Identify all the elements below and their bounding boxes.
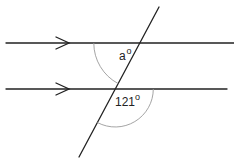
angle-a-degree: o <box>127 46 132 56</box>
angle-a-label: a <box>119 49 126 63</box>
transversal-line <box>79 7 159 157</box>
angle-a-arc <box>94 43 118 84</box>
angle-121-label: 121 <box>115 95 135 109</box>
angle-121-degree: o <box>135 92 140 102</box>
geometry-diagram: a o 121 o <box>0 0 234 164</box>
